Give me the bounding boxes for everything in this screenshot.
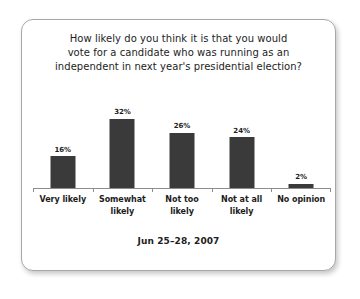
axis-tick-1 [93,188,94,192]
bar-slot-not-too-likely: 26% [152,82,212,188]
bar-rect-somewhat-likely [110,119,135,188]
plot-area: 16% 32% 26% 24% 2% [33,82,331,188]
bar-value-no-opinion: 2% [295,173,307,181]
category-label-not-too-likely: Not too likely [152,194,212,217]
category-label-somewhat-likely-line-1: Somewhat [93,194,153,206]
bar-rect-not-too-likely [169,133,194,188]
chart-title-line-2: vote for a candidate who was running as … [32,46,325,60]
category-label-very-likely-line-1: Very likely [33,194,93,206]
chart-title: How likely do you think it is that you w… [32,32,325,75]
category-label-not-too-likely-line-1: Not too [152,194,212,206]
axis-tick-5 [330,188,331,192]
category-label-not-at-all-likely-line-1: Not at all [212,194,272,206]
chart-footer-date: Jun 25–28, 2007 [22,236,335,246]
bar-somewhat-likely[interactable]: 32% [110,108,135,188]
bar-slot-no-opinion: 2% [271,82,331,188]
bar-no-opinion[interactable]: 2% [289,173,314,188]
chart-title-line-1: How likely do you think it is that you w… [32,32,325,46]
axis-tick-4 [271,188,272,192]
category-label-not-at-all-likely: Not at all likely [212,194,272,217]
category-axis-labels: Very likely Somewhat likely Not too like… [33,194,331,228]
bar-value-very-likely: 16% [55,146,71,154]
bar-not-at-all-likely[interactable]: 24% [229,127,254,188]
category-label-very-likely: Very likely [33,194,93,206]
bar-rect-not-at-all-likely [229,137,254,188]
category-label-not-at-all-likely-line-2: likely [212,206,272,218]
bar-slot-not-at-all-likely: 24% [212,82,272,188]
category-label-no-opinion: No opinion [271,194,331,206]
bar-value-somewhat-likely: 32% [114,108,130,116]
category-label-somewhat-likely-line-2: likely [93,206,153,218]
bar-slot-somewhat-likely: 32% [93,82,153,188]
axis-tick-2 [152,188,153,192]
category-label-no-opinion-line-1: No opinion [271,194,331,206]
bar-rect-very-likely [50,156,75,188]
bar-not-too-likely[interactable]: 26% [169,122,194,188]
axis-tick-0 [33,188,34,192]
bar-very-likely[interactable]: 16% [50,146,75,188]
chart-card: How likely do you think it is that you w… [21,19,336,271]
bar-slot-very-likely: 16% [33,82,93,188]
axis-tick-3 [212,188,213,192]
category-label-not-too-likely-line-2: likely [152,206,212,218]
bar-value-not-at-all-likely: 24% [233,127,249,135]
category-label-somewhat-likely: Somewhat likely [93,194,153,217]
x-axis-line [33,188,331,189]
chart-title-line-3: independent in next year's presidential … [32,60,325,74]
bar-value-not-too-likely: 26% [174,122,190,130]
